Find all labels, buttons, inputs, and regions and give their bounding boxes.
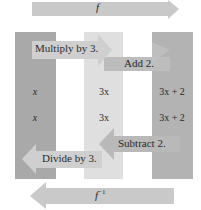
inverse-function-arrow [0,0,201,210]
inverse-function-label: f−1 [95,188,106,201]
